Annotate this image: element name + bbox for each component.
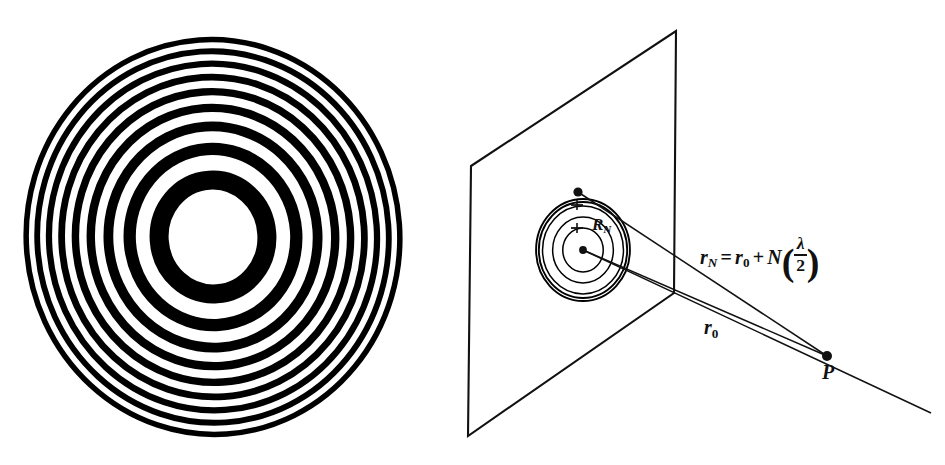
zone-edge-point [573, 187, 582, 196]
formula-rn-r: r [700, 246, 708, 268]
rn-sub: N [603, 223, 611, 235]
formula-rn-sub: N [708, 255, 718, 270]
ray-group [578, 192, 931, 413]
formula-r0-r: r [735, 246, 743, 268]
formula-fraction: λ2 [794, 235, 806, 275]
diffraction-plane [468, 31, 676, 436]
formula-paren-close: ) [807, 241, 820, 283]
formula-lambda: λ [794, 235, 806, 253]
r-zero-r: r [704, 316, 712, 338]
fresnel-zone-plate-panel [0, 0, 445, 465]
formula-plus: + [750, 246, 768, 268]
formula-r-n-label: rN=r0+N(λ2) [700, 235, 819, 281]
zone-center-point [579, 246, 587, 254]
zone-plate-geometry-panel [445, 0, 945, 465]
geometry-svg [445, 0, 945, 465]
figure-root: rN=r0+N(λ2) r0 P RN [0, 0, 945, 465]
formula-equals: = [717, 246, 735, 268]
focus-point-P [822, 351, 832, 361]
zone-ring [51, 67, 375, 407]
rn-r: R [592, 215, 603, 234]
zone-plate-svg [0, 0, 445, 465]
formula-N: N [767, 246, 781, 268]
formula-two: 2 [794, 257, 806, 275]
zone-ring-group [13, 27, 413, 447]
r-zero-label: r0 [704, 317, 718, 340]
zone-ring [155, 176, 270, 297]
r-capital-n-label: RN [592, 216, 611, 235]
formula-r0-sub: 0 [743, 255, 750, 270]
point-p-text: P [822, 361, 834, 383]
r-zero-sub: 0 [712, 326, 719, 341]
point-p-label: P [822, 362, 834, 382]
zone-ring [82, 100, 344, 375]
formula-paren-open: ( [782, 241, 795, 283]
